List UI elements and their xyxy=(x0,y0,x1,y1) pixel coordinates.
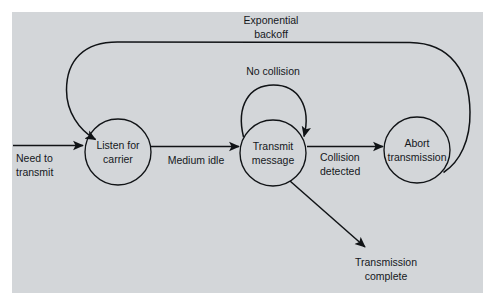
edge-label-exponential-backoff-line1: Exponential xyxy=(244,14,299,26)
edge-label-transmission-complete-line2: complete xyxy=(365,270,408,282)
state-label-listen-line1: Listen for xyxy=(96,139,140,151)
edge-label-transmission-complete-line1: Transmission xyxy=(355,256,417,268)
state-abort-transmission xyxy=(384,117,450,183)
state-listen-for-carrier xyxy=(85,119,151,185)
state-diagram-svg: Listen for carrier Transmit message Abor… xyxy=(0,0,496,306)
diagram-figure: Listen for carrier Transmit message Abor… xyxy=(0,0,496,306)
edge-transmission-complete xyxy=(290,181,365,247)
edge-label-need-to-transmit-line1: Need to xyxy=(16,152,53,164)
state-label-abort-line1: Abort xyxy=(404,137,429,149)
edge-label-need-to-transmit-line2: transmit xyxy=(16,166,53,178)
edge-label-exponential-backoff-line2: backoff xyxy=(254,28,288,40)
state-label-transmit-line1: Transmit xyxy=(253,140,294,152)
edge-label-collision-detected-line2: detected xyxy=(320,165,360,177)
edge-label-collision-detected-line1: Collision xyxy=(320,151,360,163)
state-label-listen-line2: carrier xyxy=(103,153,133,165)
edge-label-no-collision: No collision xyxy=(246,65,300,77)
state-transmit-message xyxy=(240,120,306,186)
state-label-transmit-line2: message xyxy=(252,154,295,166)
edge-label-medium-idle: Medium idle xyxy=(168,154,225,166)
state-label-abort-line2: transmission xyxy=(388,151,447,163)
